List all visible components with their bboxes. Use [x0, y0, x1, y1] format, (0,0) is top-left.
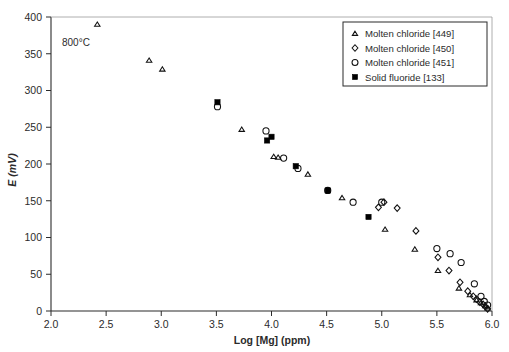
x-axis-title: Log [Mg] (ppm) — [234, 334, 310, 346]
chart-figure: 2.02.53.03.54.04.55.05.56.0 050100150200… — [0, 0, 509, 352]
data-point — [325, 188, 330, 193]
y-axis-title-group: E (mV) — [6, 153, 18, 187]
legend-item[interactable]: Molten chloride [450] — [352, 43, 454, 54]
y-tick-label: 150 — [24, 195, 42, 207]
x-tick-label: 5.5 — [430, 318, 445, 330]
x-tick-label: 3.0 — [154, 318, 169, 330]
legend-item[interactable]: Solid fluoride [133] — [352, 72, 444, 83]
legend-label: Molten chloride [450] — [365, 43, 454, 54]
legend-marker-square-filled — [352, 74, 357, 79]
data-point — [215, 100, 220, 105]
y-tick-label: 100 — [24, 231, 42, 243]
legend-label: Molten chloride [449] — [365, 28, 454, 39]
x-tick-label: 2.5 — [99, 318, 114, 330]
legend: Molten chloride [449]Molten chloride [45… — [343, 22, 487, 86]
data-point — [366, 214, 371, 219]
legend-item[interactable]: Molten chloride [449] — [352, 28, 454, 39]
y-tick-label: 200 — [24, 158, 42, 170]
legend-label: Solid fluoride [133] — [365, 72, 444, 83]
x-tick-label: 3.5 — [209, 318, 224, 330]
x-tick-label: 5.0 — [374, 318, 389, 330]
x-tick-label: 2.0 — [44, 318, 59, 330]
legend-label: Molten chloride [451] — [365, 57, 454, 68]
temperature-annotation: 800°C — [62, 37, 90, 48]
x-tick-labels: 2.02.53.03.54.04.55.05.56.0 — [44, 318, 500, 330]
y-tick-label: 50 — [30, 268, 42, 280]
x-tick-label: 4.5 — [319, 318, 334, 330]
scatter-plot: 2.02.53.03.54.04.55.05.56.0 050100150200… — [0, 0, 509, 352]
y-tick-label: 0 — [36, 305, 42, 317]
data-point — [293, 164, 298, 169]
legend-item[interactable]: Molten chloride [451] — [352, 57, 454, 68]
data-point — [269, 134, 274, 139]
y-tick-label: 250 — [24, 121, 42, 133]
y-axis-title: E (mV) — [6, 153, 18, 187]
x-tick-label: 6.0 — [485, 318, 500, 330]
x-tick-label: 4.0 — [264, 318, 279, 330]
y-tick-label: 400 — [24, 11, 42, 23]
y-tick-label: 300 — [24, 84, 42, 96]
y-tick-label: 350 — [24, 48, 42, 60]
